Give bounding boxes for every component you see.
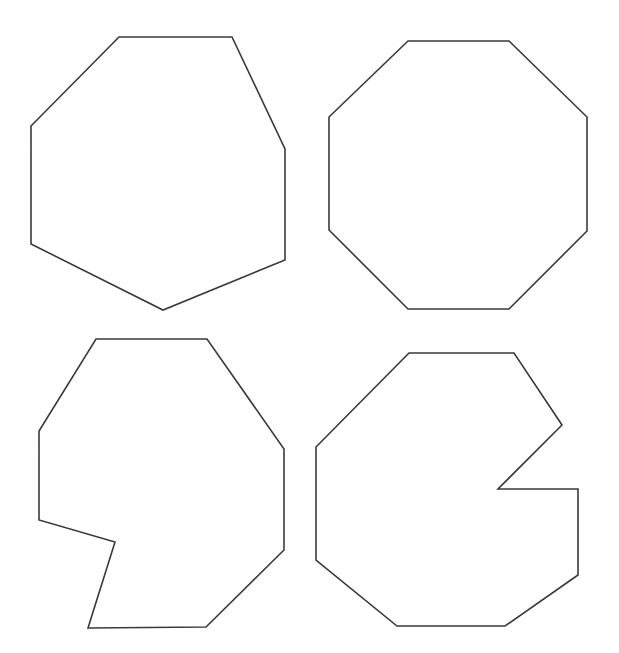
heptagon-irregular-top-left [31,37,285,310]
shapes-canvas [0,0,619,653]
notched-polygon-bottom-left [39,339,284,628]
octagon-top-right [329,41,587,309]
notched-polygon-bottom-right [316,353,578,626]
